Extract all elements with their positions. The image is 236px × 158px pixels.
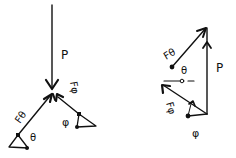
f-phi-label: Fφ bbox=[164, 101, 178, 116]
f-phi-line bbox=[58, 97, 79, 114]
support-pin-dot bbox=[25, 146, 29, 150]
phi-label: φ bbox=[192, 127, 199, 140]
p-label: P bbox=[216, 61, 223, 75]
junction-mark bbox=[53, 94, 55, 100]
f-theta-label: Fθ bbox=[13, 109, 29, 125]
free-body-diagram: P Fθ θ Fφ φ bbox=[9, 5, 96, 150]
vertex-dot bbox=[170, 65, 175, 70]
f-theta-vector-line bbox=[172, 28, 206, 67]
p-label: P bbox=[61, 48, 68, 62]
f-theta-label: Fθ bbox=[162, 46, 178, 61]
force-diagram-canvas: P Fθ θ Fφ φ P Fθ θ bbox=[0, 0, 236, 158]
force-triangle: P Fθ θ Fφ φ bbox=[162, 28, 224, 140]
f-phi-label: Fφ bbox=[68, 80, 81, 94]
theta-label: θ bbox=[30, 132, 36, 143]
reference-dot bbox=[180, 79, 184, 83]
support-pin-dot bbox=[75, 125, 79, 129]
theta-label: θ bbox=[181, 65, 187, 76]
base-line bbox=[188, 114, 207, 116]
phi-label: φ bbox=[62, 116, 69, 129]
